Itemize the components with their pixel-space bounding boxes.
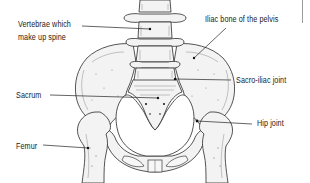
stipple: [89, 147, 90, 148]
label-sacrum: Sacrum: [16, 89, 41, 102]
sacrum-pointer: [157, 97, 159, 99]
label-vertebrae: Vertebrae which make up spine: [18, 18, 71, 43]
pelvis-diagram: Vertebrae which make up spine Iliac bone…: [0, 0, 310, 183]
stipple: [219, 165, 220, 166]
sacral-foramen: [149, 113, 151, 115]
stipple: [91, 165, 92, 166]
stipple: [213, 157, 214, 158]
sacral-foramen: [145, 103, 147, 105]
label-sacro-iliac-joint: Sacro-iliac joint: [236, 74, 286, 87]
sacral-foramen: [163, 103, 165, 105]
hip-pointer: [196, 120, 199, 123]
label-vertebrae-line1: Vertebrae which: [18, 18, 71, 31]
label-hip-joint: Hip joint: [257, 117, 284, 130]
iliac-pointer: [193, 57, 195, 59]
sacroiliac-pointer: [174, 78, 176, 80]
sacral-foramen: [159, 113, 161, 115]
femur-leader: [43, 145, 88, 148]
femur-pointer: [87, 147, 89, 149]
label-femur: Femur: [16, 140, 37, 153]
stipple: [95, 155, 96, 156]
label-vertebrae-line2: make up spine: [18, 31, 71, 44]
vertebrae-pointer: [149, 28, 151, 30]
stipple: [217, 147, 218, 148]
label-iliac-bone: Iliac bone of the pelvis: [205, 13, 278, 26]
